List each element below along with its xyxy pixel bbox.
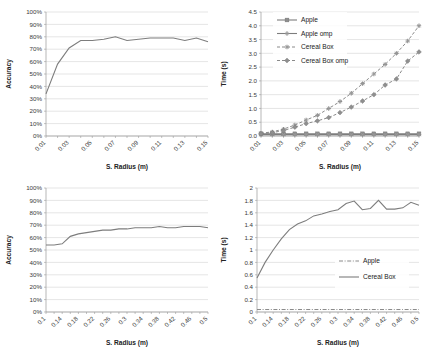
- series-accuracy: [46, 226, 208, 245]
- svg-text:0.22: 0.22: [293, 314, 307, 328]
- chart-panel-top-left: 0%10%20%30%40%50%60%70%80%90%100%0.010.0…: [0, 0, 215, 180]
- y-axis-tick-labels: 0.00.51.01.52.02.53.03.54.04.5: [248, 8, 257, 139]
- svg-text:10%: 10%: [30, 296, 43, 303]
- svg-text:0.38: 0.38: [147, 314, 161, 328]
- svg-text:100%: 100%: [26, 184, 42, 191]
- svg-text:0.46: 0.46: [390, 314, 404, 328]
- svg-text:40%: 40%: [30, 83, 43, 90]
- svg-text:2.5: 2.5: [248, 63, 257, 70]
- svg-text:0.07: 0.07: [316, 138, 330, 152]
- svg-text:50%: 50%: [30, 246, 43, 253]
- svg-text:0.18: 0.18: [277, 314, 291, 328]
- svg-text:2: 2: [250, 184, 254, 191]
- svg-text:0.01: 0.01: [248, 138, 262, 152]
- svg-text:2.0: 2.0: [248, 77, 257, 84]
- svg-text:20%: 20%: [30, 107, 43, 114]
- svg-text:1.0: 1.0: [248, 105, 257, 112]
- svg-text:0.14: 0.14: [260, 314, 274, 328]
- svg-text:3.0: 3.0: [248, 50, 257, 57]
- svg-text:0.18: 0.18: [66, 314, 80, 328]
- svg-text:3.5: 3.5: [248, 36, 257, 43]
- legend-label: Cereal Box: [301, 43, 334, 50]
- svg-text:60%: 60%: [30, 58, 43, 65]
- svg-text:0.11: 0.11: [361, 138, 375, 152]
- time-vs-radius-chart-small: 0.00.51.01.52.02.53.03.54.04.50.010.030.…: [215, 0, 429, 180]
- svg-text:0.4: 0.4: [244, 283, 253, 290]
- axes: [44, 12, 208, 138]
- y-axis-tick-labels: 0%10%20%30%40%50%60%70%80%90%100%: [26, 8, 42, 139]
- svg-text:0.0: 0.0: [248, 132, 257, 139]
- svg-text:30%: 30%: [30, 271, 43, 278]
- svg-text:0.26: 0.26: [98, 314, 112, 328]
- svg-text:40%: 40%: [30, 259, 43, 266]
- x-axis-tick-labels: 0.010.030.050.070.090.110.130.15: [248, 138, 420, 152]
- y-axis-title: Accuracy: [5, 59, 13, 89]
- svg-text:10%: 10%: [30, 120, 43, 127]
- axes: [44, 188, 208, 314]
- svg-text:0.3: 0.3: [328, 314, 339, 325]
- svg-text:0.14: 0.14: [49, 314, 63, 328]
- svg-text:0.8: 0.8: [244, 259, 253, 266]
- svg-text:0.26: 0.26: [309, 314, 323, 328]
- legend-label: Apple omp: [301, 30, 333, 38]
- svg-text:30%: 30%: [30, 95, 43, 102]
- svg-text:0.34: 0.34: [341, 314, 355, 328]
- svg-text:0.3: 0.3: [117, 314, 128, 325]
- svg-text:0.11: 0.11: [149, 138, 163, 152]
- svg-text:4.0: 4.0: [248, 22, 257, 29]
- svg-text:0.01: 0.01: [33, 138, 47, 152]
- series-apple-omp: [259, 132, 421, 136]
- x-axis-tick-labels: 0.10.140.180.220.260.30.340.380.420.460.…: [36, 314, 209, 328]
- svg-text:50%: 50%: [30, 70, 43, 77]
- svg-text:0.15: 0.15: [195, 138, 209, 152]
- accuracy-vs-radius-chart-large: 0%10%20%30%40%50%60%70%80%90%100%0.10.14…: [0, 180, 215, 360]
- x-axis-tick-labels: 0.10.140.180.220.260.30.340.380.420.460.…: [247, 314, 420, 328]
- svg-text:70%: 70%: [30, 221, 43, 228]
- svg-text:0.6: 0.6: [244, 271, 253, 278]
- svg-text:0.34: 0.34: [130, 314, 144, 328]
- series-accuracy: [46, 37, 208, 94]
- svg-text:0.2: 0.2: [244, 296, 253, 303]
- svg-text:0.42: 0.42: [163, 314, 177, 328]
- chart-legend: AppleCereal Box: [335, 253, 409, 289]
- svg-text:1.6: 1.6: [244, 209, 253, 216]
- x-axis-tick-labels: 0.010.030.050.070.090.110.130.15: [33, 138, 209, 152]
- y-axis-tick-labels: 0%10%20%30%40%50%60%70%80%90%100%: [26, 184, 42, 315]
- svg-text:90%: 90%: [30, 21, 43, 28]
- y-axis-title: Time (s): [220, 237, 228, 262]
- svg-text:80%: 80%: [30, 209, 43, 216]
- svg-text:0.13: 0.13: [172, 138, 186, 152]
- svg-text:0.42: 0.42: [374, 314, 388, 328]
- svg-text:0.09: 0.09: [339, 138, 353, 152]
- svg-text:0.5: 0.5: [409, 314, 420, 325]
- svg-text:1.8: 1.8: [244, 197, 253, 204]
- svg-text:0.1: 0.1: [247, 314, 258, 325]
- chart-panel-bottom-right: 00.20.40.60.811.21.41.61.820.10.140.180.…: [215, 180, 429, 360]
- svg-text:0.03: 0.03: [56, 138, 70, 152]
- x-axis-title: S. Radius (m): [317, 339, 359, 347]
- time-vs-radius-chart-large: 00.20.40.60.811.21.41.61.820.10.140.180.…: [215, 180, 429, 360]
- svg-text:90%: 90%: [30, 197, 43, 204]
- legend-label: Apple: [301, 16, 318, 24]
- chart-panel-top-right: 0.00.51.01.52.02.53.03.54.04.50.010.030.…: [215, 0, 429, 180]
- svg-text:0.15: 0.15: [406, 138, 420, 152]
- y-axis-title: Time (s): [220, 61, 228, 86]
- x-axis-title: S. Radius (m): [106, 163, 148, 171]
- chart-legend: AppleApple ompCereal BoxCereal Box omp: [273, 12, 349, 70]
- svg-text:0.5: 0.5: [248, 118, 257, 125]
- svg-text:0.38: 0.38: [358, 314, 372, 328]
- x-axis-title: S. Radius (m): [106, 339, 148, 347]
- svg-text:0.03: 0.03: [271, 138, 285, 152]
- svg-text:0.22: 0.22: [82, 314, 96, 328]
- legend-label: Cereal Box: [363, 273, 396, 280]
- gridlines: [46, 188, 208, 312]
- svg-text:0.05: 0.05: [80, 138, 94, 152]
- chart-panel-bottom-left: 0%10%20%30%40%50%60%70%80%90%100%0.10.14…: [0, 180, 215, 360]
- svg-text:1.4: 1.4: [244, 221, 253, 228]
- svg-text:60%: 60%: [30, 234, 43, 241]
- svg-text:0.05: 0.05: [293, 138, 307, 152]
- svg-text:4.5: 4.5: [248, 8, 257, 15]
- svg-text:1: 1: [250, 246, 254, 253]
- svg-text:0: 0: [250, 308, 254, 315]
- svg-text:0.07: 0.07: [103, 138, 117, 152]
